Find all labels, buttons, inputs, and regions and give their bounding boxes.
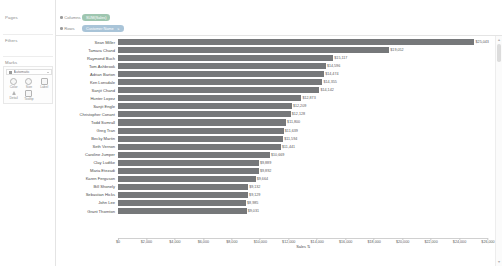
chart-row[interactable]: Caroline Jumper$10,669 xyxy=(56,151,488,159)
bar-mark[interactable] xyxy=(118,95,301,101)
bar-mark[interactable] xyxy=(118,79,322,85)
x-axis-tick: $12,000 xyxy=(282,238,295,244)
chart-row[interactable]: Becky Martin$11,594 xyxy=(56,135,488,143)
tick-label: $12,000 xyxy=(282,240,295,244)
marks-button-size[interactable]: Size xyxy=(21,78,36,90)
marks-type-dropdown[interactable]: Automatic xyxy=(6,69,52,75)
row-category-label[interactable]: Todd Sumrall xyxy=(56,120,118,125)
sort-icon[interactable]: ⇅ xyxy=(117,27,120,31)
columns-shelf[interactable]: Columns SUM(Sales) xyxy=(60,13,110,22)
bar-mark[interactable] xyxy=(118,128,284,134)
vertical-scrollbar[interactable]: ▲ ▼ xyxy=(495,36,502,266)
chart-row[interactable]: Christopher Conant$12,128 xyxy=(56,110,488,118)
chart-row[interactable]: Karen Ferguson$9,664 xyxy=(56,175,488,183)
row-category-label[interactable]: John Lee xyxy=(56,200,118,205)
tick-label: $10,000 xyxy=(254,240,267,244)
marks-button-color[interactable]: Color xyxy=(6,78,21,90)
bar-mark[interactable] xyxy=(118,208,247,214)
chart-row[interactable]: Tom Ashbrook$14,596 xyxy=(56,62,488,70)
x-axis-tick: $22,000 xyxy=(424,238,437,244)
row-category-label[interactable]: Sanjit Chand xyxy=(56,88,118,93)
tick-mark xyxy=(488,238,489,240)
row-category-label[interactable]: Sanjit Engle xyxy=(56,104,118,109)
chart-row[interactable]: John Lee$8,985 xyxy=(56,199,488,207)
bar-mark[interactable] xyxy=(118,71,324,77)
row-category-label[interactable]: Tamara Chand xyxy=(56,48,118,53)
bar-zone: $8,985 xyxy=(118,199,488,207)
row-category-label[interactable]: Bill Shonely xyxy=(56,184,118,189)
marks-button-detail-label: Detail xyxy=(9,97,17,100)
bar-mark[interactable] xyxy=(118,144,281,150)
bar-mark[interactable] xyxy=(118,103,292,109)
row-category-label[interactable]: Caroline Jumper xyxy=(56,152,118,157)
chart-row[interactable]: Adrian Barton$14,474 xyxy=(56,70,488,78)
bar-mark[interactable] xyxy=(118,168,259,174)
chart-row[interactable]: Sanjit Engle$12,209 xyxy=(56,102,488,110)
bar-value-label: $9,892 xyxy=(259,169,271,173)
chart-row[interactable]: Seth Vernon$11,441 xyxy=(56,143,488,151)
bar-mark[interactable] xyxy=(118,192,248,198)
bar-zone: $19,052 xyxy=(118,46,488,54)
row-category-label[interactable]: Adrian Barton xyxy=(56,72,118,77)
chart-row[interactable]: Tamara Chand$19,052 xyxy=(56,46,488,54)
bar-mark[interactable] xyxy=(118,55,333,61)
x-axis: Sales⇅ $0$2,000$4,000$6,000$8,000$10,000… xyxy=(118,238,488,252)
row-category-label[interactable]: Grant Thornton xyxy=(56,209,118,214)
chart-row[interactable]: Hunter Lopez$12,873 xyxy=(56,94,488,102)
bar-mark[interactable] xyxy=(118,152,270,158)
row-category-label[interactable]: Seth Vernon xyxy=(56,144,118,149)
bar-value-label: $12,873 xyxy=(301,96,316,100)
bar-mark[interactable] xyxy=(118,63,326,69)
bar-mark[interactable] xyxy=(118,39,474,45)
chart-row[interactable]: Ken Lonsdale$14,355 xyxy=(56,78,488,86)
bar-value-label: $25,043 xyxy=(474,40,489,44)
row-category-label[interactable]: Karen Ferguson xyxy=(56,176,118,181)
marks-button-label[interactable]: Label xyxy=(37,78,52,90)
chart-row[interactable]: Clay Ludtke$9,889 xyxy=(56,159,488,167)
chart-row[interactable]: Raymond Buch$15,117 xyxy=(56,54,488,62)
row-category-label[interactable]: Christopher Conant xyxy=(56,112,118,117)
chart-row[interactable]: Todd Sumrall$11,800 xyxy=(56,118,488,126)
row-category-label[interactable]: Clay Ludtke xyxy=(56,160,118,165)
row-category-label[interactable]: Sebastian Hicks xyxy=(56,192,118,197)
bar-mark[interactable] xyxy=(118,136,283,142)
row-category-label[interactable]: Greg Tran xyxy=(56,128,118,133)
scroll-down-arrow-icon[interactable]: ▼ xyxy=(496,259,502,265)
chart-row[interactable]: Greg Tran$11,639 xyxy=(56,127,488,135)
row-category-label[interactable]: Becky Martin xyxy=(56,136,118,141)
x-axis-title[interactable]: Sales⇅ xyxy=(118,244,488,249)
bar-mark[interactable] xyxy=(118,184,248,190)
marks-type-icon xyxy=(9,71,12,74)
pill-customer-name[interactable]: Customer Name ⇅ xyxy=(82,25,124,32)
bar-mark[interactable] xyxy=(118,200,246,206)
chart-row[interactable]: Sanjit Chand$14,142 xyxy=(56,86,488,94)
bar-zone: $9,132 xyxy=(118,183,488,191)
marks-button-tooltip[interactable]: Tooltip xyxy=(21,90,36,102)
marks-button-detail[interactable]: Detail xyxy=(6,90,21,102)
bar-mark[interactable] xyxy=(118,119,286,125)
row-category-label[interactable]: Hunter Lopez xyxy=(56,96,118,101)
row-category-label[interactable]: Sean Miller xyxy=(56,40,118,45)
row-category-label[interactable]: Tom Ashbrook xyxy=(56,64,118,69)
chart-row[interactable]: Sean Miller$25,043 xyxy=(56,38,488,46)
chart-row[interactable]: Sebastian Hicks$9,129 xyxy=(56,191,488,199)
pill-sum-sales[interactable]: SUM(Sales) xyxy=(82,14,110,21)
row-category-label[interactable]: Ken Lonsdale xyxy=(56,80,118,85)
rows-shelf[interactable]: Rows Customer Name ⇅ xyxy=(60,24,124,33)
chart-row[interactable]: Grant Thornton$9,031 xyxy=(56,207,488,215)
marks-type-label: Automatic xyxy=(14,70,48,74)
bar-mark[interactable] xyxy=(118,87,319,93)
row-category-label[interactable]: Maria Etezadi xyxy=(56,168,118,173)
chevron-down-icon xyxy=(47,72,49,73)
chart-row[interactable]: Maria Etezadi$9,892 xyxy=(56,167,488,175)
row-category-label[interactable]: Raymond Buch xyxy=(56,56,118,61)
tooltip-icon xyxy=(25,90,32,97)
bar-mark[interactable] xyxy=(118,176,256,182)
chart-row[interactable]: Bill Shonely$9,132 xyxy=(56,183,488,191)
scrollbar-thumb[interactable] xyxy=(497,44,501,62)
bar-zone: $12,209 xyxy=(118,102,488,110)
bar-mark[interactable] xyxy=(118,160,259,166)
scroll-up-arrow-icon[interactable]: ▲ xyxy=(496,37,502,43)
bar-mark[interactable] xyxy=(118,111,291,117)
bar-mark[interactable] xyxy=(118,47,389,53)
